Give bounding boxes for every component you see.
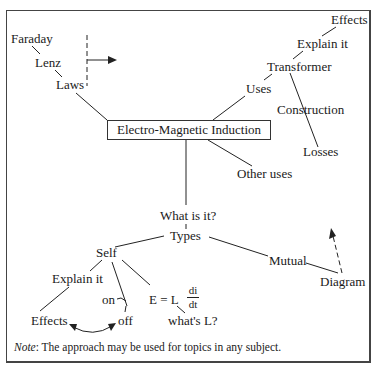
node-self: Self bbox=[96, 246, 117, 260]
node-explain-self: Explain it bbox=[52, 272, 103, 286]
node-laws: Laws bbox=[56, 78, 84, 92]
central-topic: Electro-Magnetic Induction bbox=[117, 122, 261, 137]
node-transformer: Transformer bbox=[267, 60, 332, 74]
node-uses: Uses bbox=[246, 82, 271, 96]
note-text: : The approach may be used for topics in… bbox=[36, 341, 281, 353]
node-effects-self: Effects bbox=[31, 314, 68, 328]
node-losses: Losses bbox=[303, 145, 338, 159]
node-explain-top: Explain it bbox=[297, 37, 348, 51]
node-other-uses: Other uses bbox=[237, 167, 292, 181]
formula-fraction: di dt bbox=[187, 285, 199, 310]
central-topic-box: Electro-Magnetic Induction bbox=[107, 120, 271, 140]
node-effects-top: Effects bbox=[331, 13, 368, 27]
node-mutual: Mutual bbox=[269, 254, 307, 268]
node-types: Types bbox=[170, 229, 201, 243]
node-on: on bbox=[102, 293, 115, 307]
note-label: Note bbox=[14, 341, 36, 353]
node-what-is-it: What is it? bbox=[160, 209, 216, 223]
formula-denominator: dt bbox=[187, 299, 199, 310]
footnote: Note: The approach may be used for topic… bbox=[14, 341, 281, 353]
node-diagram: Diagram bbox=[320, 275, 365, 289]
node-whats-l: what's L? bbox=[168, 314, 218, 328]
formula-numerator: di bbox=[187, 285, 199, 296]
node-lenz: Lenz bbox=[35, 56, 61, 70]
node-construction: Construction bbox=[277, 103, 344, 117]
formula-lhs: E = L bbox=[149, 293, 179, 307]
node-faraday: Faraday bbox=[11, 32, 53, 46]
node-off: off bbox=[118, 314, 133, 328]
